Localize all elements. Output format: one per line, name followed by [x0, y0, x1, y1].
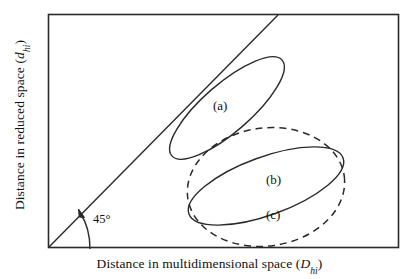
x-axis-label: Distance in multidimensional space (Dhi) — [0, 256, 419, 274]
region-label-c: (c) — [266, 207, 280, 223]
region-label-b: (b) — [266, 172, 281, 188]
region-label-b-text: (b) — [266, 172, 281, 187]
x-axis-label-symbol: D — [300, 256, 310, 271]
x-axis-label-prefix: Distance in multidimensional space ( — [97, 256, 301, 271]
angle-annotation-label: 45° — [93, 212, 111, 227]
region-label-a-text: (a) — [213, 98, 227, 113]
region-label-c-text: (c) — [266, 207, 280, 222]
angle-value: 45° — [93, 212, 111, 226]
figure-container: 45° (a) (b) (c) Distance in reduced spac… — [0, 0, 419, 279]
y-axis-label-symbol: d — [12, 52, 27, 59]
y-axis-label-prefix: Distance in reduced space ( — [12, 59, 27, 210]
x-axis-label-subscript: hi — [310, 266, 318, 276]
plot-drawing — [0, 0, 419, 279]
x-axis-label-suffix: ) — [318, 256, 323, 271]
region-label-a: (a) — [213, 98, 227, 114]
y-axis-label-subscript: hi — [22, 45, 32, 53]
y-axis-label-container: Distance in reduced space (dhi) — [0, 0, 42, 250]
y-axis-label: Distance in reduced space (dhi) — [12, 40, 30, 210]
